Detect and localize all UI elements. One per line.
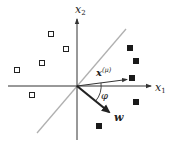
open-square-marker (15, 68, 20, 73)
filled-square-marker (96, 123, 102, 129)
weight-vector-label: w (114, 111, 124, 124)
open-square-marker (49, 32, 54, 37)
open-square-marker (30, 93, 35, 98)
open-square-points (15, 32, 69, 98)
filled-square-marker (127, 45, 133, 51)
open-square-marker (64, 47, 69, 52)
x1-axis-label: x1 (155, 81, 166, 95)
perceptron-diagram: x1 x2 x(μ) w φ (0, 0, 173, 147)
input-vector-arrow (77, 80, 127, 87)
input-vector-label: x(μ) (95, 66, 112, 78)
filled-square-marker (129, 75, 135, 81)
x2-axis-label: x2 (75, 3, 86, 17)
filled-square-marker (133, 99, 139, 105)
angle-label: φ (101, 90, 108, 101)
open-square-marker (40, 61, 45, 66)
filled-square-marker (133, 58, 139, 64)
